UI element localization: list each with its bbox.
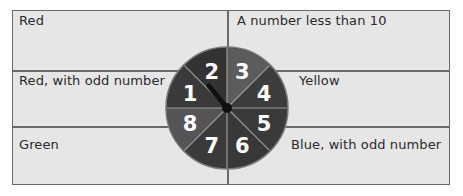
- spinner-number-2: 2: [204, 60, 219, 84]
- spinner-number-8: 8: [183, 112, 198, 136]
- spinner: 12345678: [165, 46, 289, 170]
- outcome-red: Red: [19, 13, 44, 28]
- spinner-wheel: 12345678: [165, 46, 289, 170]
- outcome-number-less-than-10: A number less than 10: [237, 13, 387, 28]
- spinner-pivot: [222, 103, 232, 113]
- spinner-number-3: 3: [235, 60, 250, 84]
- outcome-blue-odd: Blue, with odd number: [291, 137, 441, 152]
- spinner-number-5: 5: [257, 112, 272, 136]
- spinner-number-7: 7: [204, 134, 219, 158]
- outcome-green: Green: [19, 137, 59, 152]
- spinner-number-6: 6: [235, 134, 250, 158]
- spinner-number-4: 4: [257, 82, 272, 106]
- outcome-red-odd: Red, with odd number: [19, 73, 165, 88]
- spinner-number-1: 1: [183, 82, 198, 106]
- outcome-yellow: Yellow: [299, 73, 340, 88]
